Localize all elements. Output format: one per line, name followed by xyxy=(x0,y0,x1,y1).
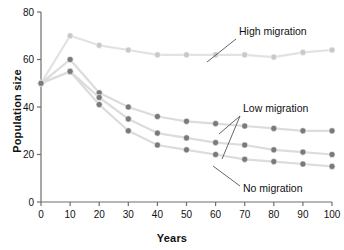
data-point xyxy=(154,52,160,58)
data-point xyxy=(183,52,189,58)
y-tick-label: 60 xyxy=(23,54,35,65)
data-point xyxy=(183,147,189,153)
population-line-chart: 0204060800102030405060708090100 High mig… xyxy=(0,0,344,250)
x-tick-label: 40 xyxy=(152,209,164,220)
x-tick-label: 60 xyxy=(210,209,222,220)
x-tick-label: 80 xyxy=(268,209,280,220)
data-point xyxy=(329,163,335,169)
data-point xyxy=(154,130,160,136)
y-tick-label: 80 xyxy=(23,7,35,18)
data-point xyxy=(213,140,219,146)
data-point xyxy=(242,142,248,148)
x-tick-label: 100 xyxy=(324,209,341,220)
y-tick-label: 0 xyxy=(28,197,34,208)
x-tick-label: 10 xyxy=(65,209,77,220)
data-point xyxy=(125,116,131,122)
data-point xyxy=(300,149,306,155)
data-point xyxy=(125,104,131,110)
x-tick-label: 20 xyxy=(94,209,106,220)
data-point xyxy=(271,159,277,165)
data-point xyxy=(125,47,131,53)
data-point xyxy=(300,49,306,55)
data-point xyxy=(38,80,44,86)
data-point xyxy=(67,33,73,39)
annotations: High migrationLow migrationNo migration xyxy=(207,25,309,194)
data-point xyxy=(183,135,189,141)
data-point xyxy=(271,125,277,131)
data-point xyxy=(154,142,160,148)
data-point xyxy=(300,128,306,134)
series-annotation-label: High migration xyxy=(239,25,307,37)
data-point xyxy=(96,94,102,100)
x-tick-label: 30 xyxy=(123,209,135,220)
data-point xyxy=(213,121,219,127)
chart-container: 0204060800102030405060708090100 High mig… xyxy=(0,0,344,250)
data-point xyxy=(67,68,73,74)
x-tick-label: 90 xyxy=(297,209,309,220)
data-point xyxy=(271,54,277,60)
data-point xyxy=(96,102,102,108)
data-point xyxy=(125,128,131,134)
series-annotation-label: No migration xyxy=(243,182,303,194)
data-point xyxy=(242,156,248,162)
x-tick-label: 0 xyxy=(38,209,44,220)
data-point xyxy=(271,147,277,153)
data-point xyxy=(242,123,248,129)
data-point xyxy=(329,128,335,134)
x-tick-label: 70 xyxy=(239,209,251,220)
data-point xyxy=(242,52,248,58)
data-point xyxy=(213,151,219,157)
y-tick-label: 40 xyxy=(23,102,35,113)
data-point xyxy=(329,47,335,53)
data-point xyxy=(67,56,73,62)
data-point xyxy=(154,113,160,119)
y-axis-title: Population size xyxy=(11,61,23,161)
y-tick-label: 20 xyxy=(23,149,35,160)
series-annotation-label: Low migration xyxy=(243,102,309,114)
data-point xyxy=(329,151,335,157)
x-tick-label: 50 xyxy=(181,209,193,220)
data-point xyxy=(300,161,306,167)
data-point xyxy=(183,118,189,124)
data-point xyxy=(96,42,102,48)
x-axis-title: Years xyxy=(0,232,344,244)
